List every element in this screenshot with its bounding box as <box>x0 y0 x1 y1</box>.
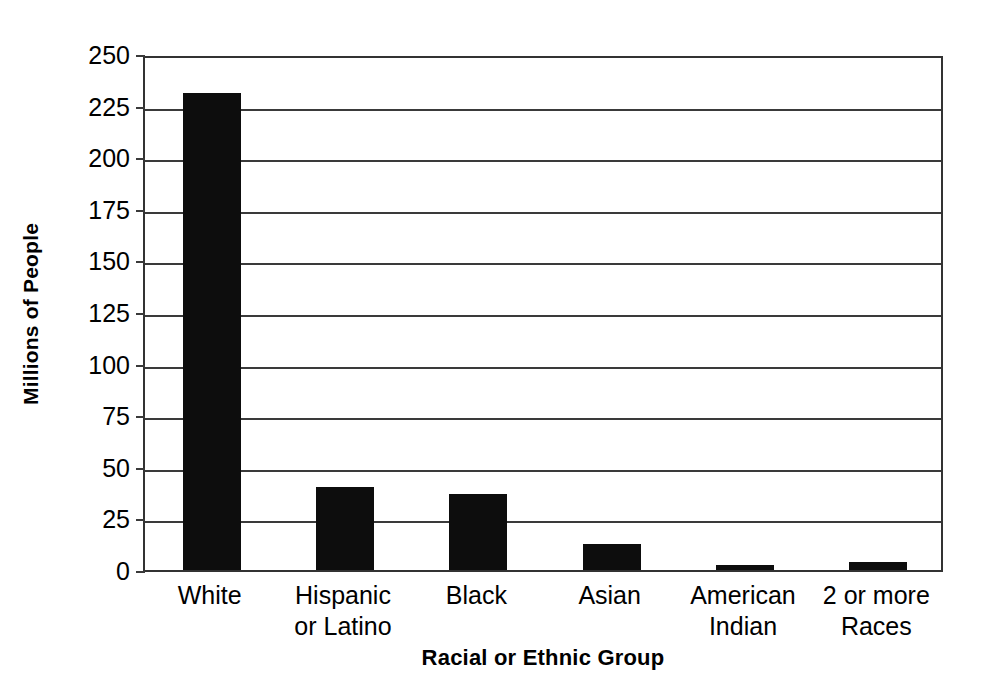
y-axis-tick-mark <box>136 416 145 418</box>
gridline <box>145 109 941 111</box>
y-axis-tick-label: 50 <box>78 456 130 481</box>
y-axis-tick-mark <box>136 55 145 57</box>
bar <box>849 562 907 570</box>
y-axis-tick-mark <box>136 571 145 573</box>
gridline <box>145 263 941 265</box>
gridline <box>145 367 941 369</box>
x-axis-category-label: White <box>143 580 276 611</box>
bar <box>716 565 774 570</box>
y-axis-tick-mark <box>136 158 145 160</box>
x-axis-category-label: American Indian <box>676 580 809 642</box>
x-axis-category-label: 2 or more Races <box>810 580 943 642</box>
y-axis-tick-label: 125 <box>78 301 130 326</box>
y-axis-tick-label: 250 <box>78 43 130 68</box>
gridline <box>145 418 941 420</box>
gridline <box>145 212 941 214</box>
y-axis-tick-mark <box>136 261 145 263</box>
y-axis-tick-mark <box>136 468 145 470</box>
y-axis-tick-label: 175 <box>78 198 130 223</box>
x-axis-category-label: Hispanic or Latino <box>276 580 409 642</box>
gridline <box>145 470 941 472</box>
y-axis-tick-mark <box>136 107 145 109</box>
x-axis-title: Racial or Ethnic Group <box>143 645 943 671</box>
y-axis-tick-mark <box>136 519 145 521</box>
plot-area <box>143 56 943 572</box>
y-axis-tick-mark <box>136 210 145 212</box>
y-axis-tick-mark <box>136 313 145 315</box>
x-axis-category-label: Black <box>410 580 543 611</box>
bar-chart-figure: Millions of People 025507510012515017520… <box>0 0 985 690</box>
y-axis-tick-label: 150 <box>78 249 130 274</box>
bar <box>583 544 641 570</box>
x-axis-category-label: Asian <box>543 580 676 611</box>
y-axis-title: Millions of People <box>14 56 48 572</box>
y-axis-tick-label: 200 <box>78 146 130 171</box>
y-axis-tick-label: 0 <box>78 559 130 584</box>
bar <box>449 494 507 570</box>
y-axis-tick-label: 225 <box>78 95 130 120</box>
y-axis-tick-label: 75 <box>78 404 130 429</box>
gridline <box>145 160 941 162</box>
bar <box>183 93 241 570</box>
bar <box>316 487 374 570</box>
y-axis-tick-mark <box>136 365 145 367</box>
gridline <box>145 315 941 317</box>
gridline <box>145 521 941 523</box>
y-axis-tick-label: 25 <box>78 507 130 532</box>
y-axis-tick-label: 100 <box>78 353 130 378</box>
